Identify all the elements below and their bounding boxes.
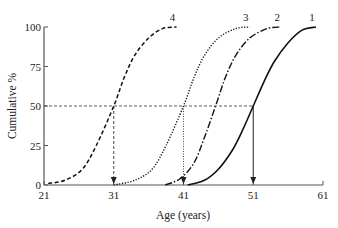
- y-tick-label: 75: [30, 61, 42, 73]
- y-tick-label: 50: [30, 100, 42, 112]
- arrow-down-icon: [250, 177, 256, 184]
- y-tick-label: 25: [30, 140, 42, 152]
- curve-labels: 1234: [170, 11, 315, 23]
- y-tick-label: 100: [25, 21, 42, 33]
- arrow-down-icon: [111, 177, 117, 184]
- x-tick-label: 31: [108, 189, 119, 201]
- curve-4: [48, 27, 176, 183]
- curve-label-2: 2: [274, 11, 280, 23]
- cumulative-age-chart: 0255075100 2131415161 1234 Age (years) C…: [0, 0, 338, 228]
- x-tick-label: 41: [178, 189, 189, 201]
- curves: [48, 27, 316, 185]
- x-tick-label: 21: [39, 189, 50, 201]
- y-axis-label: Cumulative %: [6, 73, 18, 140]
- curve-label-4: 4: [170, 11, 176, 23]
- curve-label-1: 1: [309, 11, 315, 23]
- median-guides: [44, 106, 256, 184]
- x-axis-label: Age (years): [156, 209, 210, 222]
- x-tick-label: 51: [248, 189, 259, 201]
- x-tick-label: 61: [318, 189, 329, 201]
- curve-label-3: 3: [243, 11, 249, 23]
- curve-2: [165, 27, 281, 185]
